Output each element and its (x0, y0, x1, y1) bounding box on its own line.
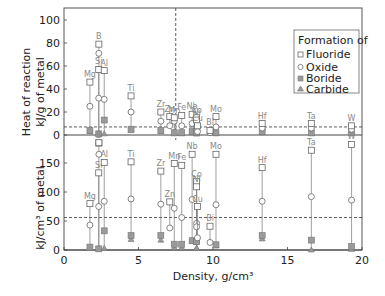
element-label: Cu (192, 114, 203, 123)
element-label: Mg (84, 192, 96, 201)
fluoride-square-icon (101, 68, 107, 74)
element-label: Hf (258, 112, 267, 121)
y-tick-label: 0 (53, 244, 60, 257)
element-label: Al (100, 150, 108, 159)
fluoride-square-icon (128, 93, 134, 99)
fluoride-square-icon (194, 184, 200, 190)
fluoride-square-icon (195, 123, 201, 129)
oxide-circle-icon (179, 123, 185, 129)
heat-of-reaction-chart: 05101520 020406080100MgBSiAlTiZrZnMnFeNb… (0, 0, 385, 296)
y-axis-label-bottom: kJ/cm³ of metal (34, 166, 47, 250)
oxide-circle-icon (195, 129, 201, 135)
boride-square-icon (87, 127, 93, 133)
boride-square-icon (158, 127, 164, 133)
element-label: Cu (192, 195, 203, 204)
element-label: Zn (165, 190, 176, 199)
y-tick-label: 80 (46, 37, 60, 50)
fluoride-square-icon (87, 201, 93, 207)
boride-square-icon (213, 130, 219, 136)
legend-carbide: Carbide (306, 83, 349, 96)
fluoride-square-icon (349, 141, 355, 147)
boride-square-icon (128, 233, 134, 239)
fluoride-square-icon (87, 79, 93, 85)
oxide-circle-icon (167, 225, 173, 231)
y-tick-label: 40 (46, 83, 60, 96)
element-label: Fe (177, 153, 186, 162)
boride-square-icon (128, 126, 134, 132)
fluoride-square-icon (171, 115, 177, 121)
element-label: Fe (177, 103, 186, 112)
element-label: W (348, 132, 356, 141)
boride-square-icon (171, 130, 177, 136)
boride-square-icon (213, 242, 219, 248)
y-tick-label: 100 (39, 14, 60, 27)
oxide-circle-icon (171, 205, 177, 211)
fluoride-square-icon (308, 121, 314, 127)
oxide-circle-icon (158, 118, 164, 124)
oxide-circle-icon (128, 109, 134, 115)
boride-square-icon (349, 244, 355, 250)
oxide-circle-icon (87, 103, 93, 109)
oxide-circle-icon (87, 222, 93, 228)
y-tick-label: 50 (46, 215, 60, 228)
fluoride-square-icon (213, 151, 219, 157)
fluoride-square-icon (179, 112, 185, 118)
fluoride-square-icon (158, 109, 164, 115)
x-axis-label: Density, g/cm³ (173, 270, 254, 283)
fluoride-square-icon (195, 204, 201, 210)
fluoride-square-icon (207, 127, 213, 133)
element-label: B (96, 131, 102, 140)
element-label: Ta (306, 112, 316, 121)
boride-square-icon (308, 237, 314, 243)
boride-square-icon (96, 246, 102, 252)
oxide-circle-icon (128, 196, 134, 202)
fluoride-square-icon (179, 162, 185, 168)
x-tick-label: 5 (135, 254, 142, 267)
fluoride-square-icon (189, 151, 195, 157)
fluoride-square-icon (259, 165, 265, 171)
boride-square-icon (158, 233, 164, 239)
x-tick-label: 15 (281, 254, 295, 267)
oxide-circle-icon (195, 235, 201, 241)
boride-square-icon (87, 244, 93, 250)
oxide-circle-icon (96, 95, 102, 101)
element-label: Al (100, 59, 108, 68)
element-label: B (96, 32, 102, 41)
legend-fluoride: Fluoride (306, 48, 351, 61)
panel-bottom: 050100150MgBSiAlTiZrZnMnFeNbCoNiCuMoBiHf… (39, 131, 362, 257)
y-axis-label-top-2: kJ/g of metal (34, 57, 47, 127)
fluoride-square-icon (128, 159, 134, 165)
y-tick-label: 20 (46, 106, 60, 119)
oxide-circle-icon (101, 198, 107, 204)
element-label: Mo (210, 142, 222, 151)
oxide-circle-icon (158, 201, 164, 207)
x-tick-label: 10 (206, 254, 220, 267)
x-tick-label: 0 (61, 254, 68, 267)
fluoride-square-icon (158, 168, 164, 174)
oxide-circle-icon (349, 197, 355, 203)
x-tick-label: 20 (355, 254, 369, 267)
element-label: Nb (187, 142, 198, 151)
legend: Formation of Fluoride Oxide Boride Carbi… (294, 30, 369, 96)
y-axis-label-top-1: Heat of reaction (20, 48, 33, 137)
element-label: Mo (210, 105, 222, 114)
boride-square-icon (101, 228, 107, 234)
element-label: Ni (193, 175, 201, 184)
oxide-circle-icon (167, 123, 173, 129)
oxide-circle-icon (194, 224, 200, 230)
legend-title: Formation of (298, 34, 369, 47)
fluoride-square-icon (96, 41, 102, 47)
fluoride-square-icon (167, 199, 173, 205)
carbide-triangle-icon (194, 245, 200, 250)
fluoride-square-icon (298, 52, 303, 57)
oxide-circle-icon (207, 239, 213, 245)
element-label: Ti (127, 84, 135, 93)
element-label: Hf (258, 156, 267, 165)
oxide-circle-icon (259, 198, 265, 204)
boride-square-icon (179, 241, 185, 247)
carbide-triangle-icon (101, 245, 107, 250)
fluoride-square-icon (96, 170, 102, 176)
fluoride-square-icon (259, 121, 265, 127)
boride-square-icon (101, 117, 107, 123)
boride-square-icon (298, 76, 303, 81)
